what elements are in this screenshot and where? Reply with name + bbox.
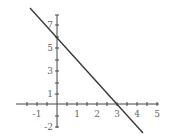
y-tick-label: 5 <box>47 43 53 53</box>
y-tick-label: -2 <box>44 122 53 132</box>
x-tick-label: 1 <box>74 109 80 119</box>
x-tick-label: 3 <box>114 109 120 119</box>
x-tick-label: 4 <box>134 109 140 119</box>
line-chart: -1 1 2 3 4 5 7 5 3 1 -2 <box>0 0 170 138</box>
x-tick-label: 5 <box>154 109 160 119</box>
y-tick-label: 3 <box>47 66 53 76</box>
y-tick-label: 1 <box>47 89 53 99</box>
x-tick-label: -1 <box>33 109 42 119</box>
x-tick-label: 2 <box>94 109 100 119</box>
